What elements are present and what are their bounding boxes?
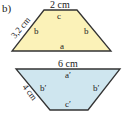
lower-label-b-right: b′ <box>93 83 100 93</box>
lower-label-c-prime: c′ <box>65 99 71 109</box>
upper-top-length: 2 cm <box>50 0 70 10</box>
upper-label-b-right: b <box>84 26 89 36</box>
lower-label-a-prime: a′ <box>65 70 71 80</box>
part-label: b) <box>2 2 12 15</box>
lower-top-length: 6 cm <box>58 58 78 69</box>
upper-label-b-left: b <box>34 26 39 36</box>
trapezoid-diagram: b) 2 cm c b b a 3,2 cm 6 cm a′ b′ b′ c′ … <box>0 0 123 117</box>
upper-label-c: c <box>57 11 61 21</box>
upper-label-a: a <box>60 41 64 51</box>
lower-label-b-left: b′ <box>40 83 47 93</box>
